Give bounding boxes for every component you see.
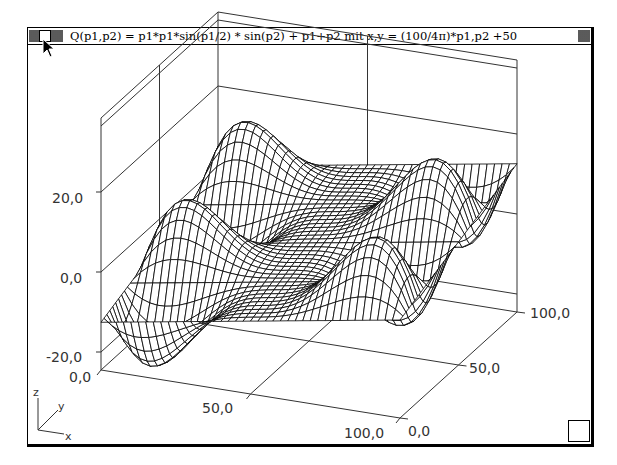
x-tick-100: 100,0 <box>344 425 384 441</box>
mouse-pointer-icon <box>42 38 60 60</box>
z-indicator-label: z <box>33 386 39 399</box>
y-indicator-label: y <box>58 400 65 413</box>
x-direction-line <box>38 430 64 434</box>
z-tick-minus20: -20,0 <box>46 349 82 365</box>
y-direction-line <box>38 410 58 430</box>
surface-plot: 20,0 0,0 -20,0 0,0 50,0 100,0 0,0 50,0 1… <box>0 0 617 465</box>
z-tick-20: 20,0 <box>52 190 83 206</box>
x-axis-tick-labels: 0,0 50,0 100,0 <box>69 369 384 441</box>
y-tick-0: 0,0 <box>408 423 430 439</box>
x-tick-50: 50,0 <box>202 400 233 416</box>
z-axis-tick-labels: 20,0 0,0 -20,0 <box>46 190 83 365</box>
x-indicator-label: x <box>65 430 72 443</box>
x-tick-0: 0,0 <box>69 369 91 385</box>
z-tick-0: 0,0 <box>60 270 82 286</box>
y-tick-100: 100,0 <box>530 305 570 321</box>
y-axis-tick-labels: 0,0 50,0 100,0 <box>408 305 570 439</box>
surface-mesh <box>101 122 517 367</box>
y-tick-50: 50,0 <box>469 360 500 376</box>
